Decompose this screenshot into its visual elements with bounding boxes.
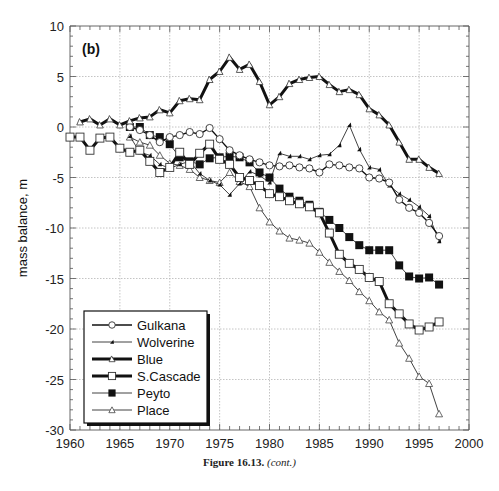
- legend-label: Wolverine: [137, 335, 195, 350]
- x-tick-label: 2000: [455, 436, 484, 451]
- panel-label: (b): [82, 41, 100, 57]
- series-wolverine: [128, 122, 442, 243]
- y-tick-label: -5: [52, 171, 64, 186]
- x-tick-label: 1965: [105, 436, 134, 451]
- legend-label: S.Cascade: [137, 369, 201, 384]
- x-tick-label: 1980: [255, 436, 284, 451]
- y-axis-label: mass balance, m: [15, 179, 30, 277]
- mass-balance-chart: 1960196519701975198019851990199520001050…: [0, 0, 499, 491]
- y-tick-label: -25: [45, 373, 64, 388]
- legend-label: Gulkana: [137, 318, 186, 333]
- legend-label: Place: [137, 403, 170, 418]
- caption-label: Figure 16.13.: [203, 456, 264, 468]
- y-tick-label: -20: [45, 322, 64, 337]
- legend-label: Blue: [137, 352, 163, 367]
- x-tick-label: 1990: [355, 436, 384, 451]
- x-tick-label: 1960: [56, 436, 85, 451]
- x-tick-label: 1970: [155, 436, 184, 451]
- y-tick-label: 0: [57, 120, 64, 135]
- y-tick-label: -15: [45, 272, 64, 287]
- series-peyto: [126, 123, 443, 289]
- series-scascade: [66, 133, 443, 334]
- x-tick-label: 1995: [405, 436, 434, 451]
- caption-note: (cont.): [267, 456, 296, 468]
- figure-caption: Figure 16.13. (cont.): [0, 456, 499, 468]
- legend-label: Peyto: [137, 386, 170, 401]
- x-tick-label: 1985: [305, 436, 334, 451]
- x-tick-label: 1975: [205, 436, 234, 451]
- y-tick-label: -10: [45, 221, 64, 236]
- legend: GulkanaWolverineBlueS.CascadePeytoPlace: [84, 311, 210, 426]
- y-tick-label: -30: [45, 423, 64, 438]
- y-tick-label: 10: [50, 19, 64, 34]
- series-blue: [77, 54, 443, 177]
- y-tick-label: 5: [57, 70, 64, 85]
